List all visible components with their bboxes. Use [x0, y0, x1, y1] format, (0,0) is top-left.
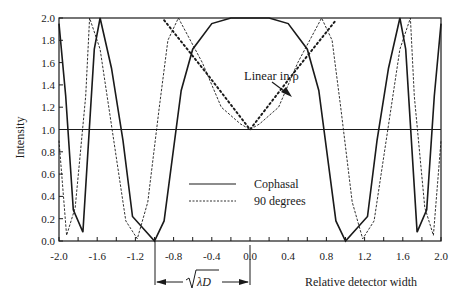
- x-tick-label: 1.6: [396, 250, 410, 262]
- y-tick-label: 1.2: [41, 101, 55, 113]
- left-arrow-icon: [156, 279, 166, 285]
- x-tick-label: -2.0: [50, 250, 68, 262]
- x-axis-label: Relative detector width: [305, 275, 417, 289]
- arrowhead-icon: [281, 87, 292, 97]
- y-tick-label: 2.0: [41, 12, 55, 24]
- dimension-marker: λD: [155, 241, 250, 289]
- legend-90-degrees-label: 90 degrees: [254, 194, 306, 208]
- chart: 0.00.20.40.60.81.01.21.41.61.82.0-2.0-1.…: [0, 0, 456, 305]
- x-tick-label: 1.2: [358, 250, 372, 262]
- annotations: Linear in ρ: [244, 69, 299, 97]
- axes: 0.00.20.40.60.81.01.21.41.61.82.0-2.0-1.…: [13, 12, 448, 289]
- y-tick-label: 1.4: [41, 79, 55, 91]
- lambda-d-label: λD: [196, 275, 211, 289]
- y-tick-label: 0.4: [41, 190, 55, 202]
- y-tick-label: 0.6: [41, 168, 55, 180]
- legend-cophasal-label: Cophasal: [254, 177, 299, 191]
- y-axis-label: Intensity: [13, 117, 27, 159]
- x-tick-label: 2.0: [434, 250, 448, 262]
- x-tick-label: -0.4: [203, 250, 221, 262]
- x-tick-label: 0.4: [281, 250, 295, 262]
- x-tick-label: -1.6: [88, 250, 106, 262]
- linear-in-rho-label: Linear in ρ: [244, 69, 299, 83]
- x-tick-label: 0.8: [320, 250, 334, 262]
- right-arrow-icon: [239, 279, 249, 285]
- legend: Cophasal 90 degrees: [189, 177, 306, 208]
- x-tick-label: -0.8: [165, 250, 183, 262]
- y-tick-label: 1.0: [41, 124, 55, 136]
- y-tick-label: 1.8: [41, 34, 55, 46]
- chart-svg: 0.00.20.40.60.81.01.21.41.61.82.0-2.0-1.…: [0, 0, 456, 305]
- y-tick-label: 0.0: [41, 235, 55, 247]
- y-tick-label: 0.2: [41, 213, 55, 225]
- x-tick-label: -1.2: [127, 250, 144, 262]
- y-tick-label: 0.8: [41, 146, 55, 158]
- y-tick-label: 1.6: [41, 57, 55, 69]
